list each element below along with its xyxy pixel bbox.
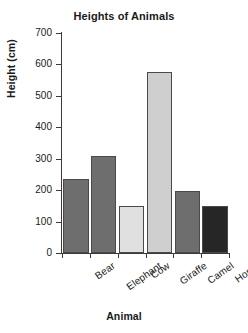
y-axis-tick — [56, 96, 62, 97]
y-axis-tick-label: 600 — [18, 59, 52, 69]
x-axis-label-giraffe: Giraffe — [178, 260, 209, 287]
bar-camel — [175, 191, 200, 253]
bar-elephant — [91, 156, 116, 253]
bar-bear — [63, 179, 88, 253]
x-axis-tick — [62, 254, 63, 258]
x-axis-label-camel: Camel — [206, 260, 236, 286]
x-axis-label-horse: Horse — [233, 260, 248, 285]
bar-chart-figure: Heights of Animals Height (cm) 010020030… — [0, 0, 248, 333]
x-axis-tick — [201, 254, 202, 258]
x-axis-title: Animal — [0, 310, 248, 322]
y-axis-tick-label: 100 — [18, 217, 52, 227]
y-axis-tick — [56, 190, 62, 191]
x-axis-tick — [229, 254, 230, 258]
y-axis-tick-label: 0 — [18, 248, 52, 258]
x-axis-tick — [118, 254, 119, 258]
y-axis-tick — [56, 222, 62, 223]
y-axis-tick-label: 400 — [18, 122, 52, 132]
y-axis-tick — [56, 33, 62, 34]
y-axis-tick-label: 500 — [18, 91, 52, 101]
bar-giraffe — [147, 72, 172, 253]
x-axis-tick — [146, 254, 147, 258]
y-axis-title: Height (cm) — [5, 39, 17, 98]
bar-cow — [119, 206, 144, 253]
y-axis-tick-label: 700 — [18, 28, 52, 38]
y-axis-tick — [56, 127, 62, 128]
y-axis-tick-label: 200 — [18, 185, 52, 195]
chart-title: Heights of Animals — [0, 10, 248, 22]
x-axis-tick — [90, 254, 91, 258]
bar-horse — [202, 206, 227, 253]
x-axis-label-bear: Bear — [93, 260, 117, 281]
y-axis-tick-label: 300 — [18, 154, 52, 164]
y-axis-tick — [56, 159, 62, 160]
y-axis-tick — [56, 64, 62, 65]
x-axis-tick — [173, 254, 174, 258]
